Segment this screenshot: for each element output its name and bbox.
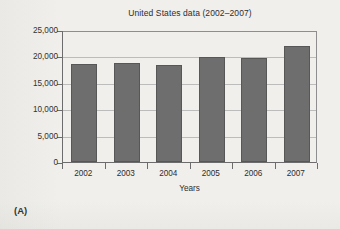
x-tick-mark	[62, 163, 63, 169]
x-tick-label-2005: 2005	[190, 169, 232, 178]
x-tick-label-2006: 2006	[232, 169, 274, 178]
y-tick-label: 0	[6, 158, 58, 167]
x-axis-title: Years	[62, 184, 317, 193]
x-tick-label-2003: 2003	[105, 169, 147, 178]
bar-2005	[199, 57, 225, 162]
panel-label: (A)	[14, 205, 27, 216]
x-tick-mark	[105, 163, 106, 169]
x-tick-label-2004: 2004	[147, 169, 189, 178]
x-tick-label-2007: 2007	[275, 169, 317, 178]
x-tick-mark	[232, 163, 233, 169]
y-tick-label: 5,000	[6, 132, 58, 141]
chart-title: United States data (2002–2007)	[62, 8, 318, 18]
gridline	[63, 57, 316, 58]
y-tick-label: 15,000	[6, 79, 58, 88]
y-tick-label: 25,000	[6, 26, 58, 35]
gridline	[63, 31, 316, 32]
x-tick-mark	[317, 163, 318, 169]
y-tick-label: 10,000	[6, 105, 58, 114]
bar-2006	[241, 58, 267, 162]
plot-area	[62, 31, 317, 163]
gridline	[63, 110, 316, 111]
bar-2004	[156, 65, 182, 162]
gridline	[63, 137, 316, 138]
x-tick-mark	[190, 163, 191, 169]
y-tick-label: 20,000	[6, 52, 58, 61]
gridline	[63, 84, 316, 85]
x-tick-label-2002: 2002	[62, 169, 104, 178]
figure-panel-a: United States data (2002–2007) 05,00010,…	[0, 0, 340, 229]
x-tick-mark	[147, 163, 148, 169]
bar-2007	[284, 46, 310, 162]
bar-2003	[114, 63, 140, 162]
x-tick-mark	[275, 163, 276, 169]
bar-2002	[71, 64, 97, 162]
